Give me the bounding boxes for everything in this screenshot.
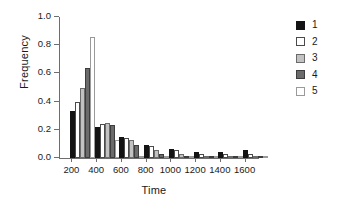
- x-axis-tick: [96, 158, 97, 162]
- frequency-time-bar-chart: Frequency 1.00.80.60.40.20.0 20040060080…: [0, 0, 337, 205]
- legend-item-3[interactable]: 3: [296, 50, 336, 67]
- bar-series-container: [59, 17, 257, 158]
- x-axis-tick: [71, 158, 72, 162]
- legend-swatch-white: [296, 37, 305, 46]
- x-axis-line: [59, 158, 259, 159]
- x-axis-tick: [195, 158, 196, 162]
- legend-item-label: 5: [312, 86, 318, 96]
- legend-item-5[interactable]: 5: [296, 83, 336, 100]
- x-axis-title: Time: [52, 184, 256, 196]
- legend-item-2[interactable]: 2: [296, 34, 336, 51]
- y-axis-title: Frequency: [18, 7, 30, 117]
- y-axis-tick-label: 0.0: [38, 151, 51, 162]
- x-axis-tick-label: 400: [88, 164, 104, 175]
- x-axis-tick-label: 200: [63, 164, 79, 175]
- x-axis-tick-label: 600: [113, 164, 129, 175]
- legend-item-4[interactable]: 4: [296, 67, 336, 84]
- x-axis-tick-label: 800: [138, 164, 154, 175]
- x-axis-tick: [245, 158, 246, 162]
- y-axis-tick-label: 0.6: [38, 66, 51, 77]
- legend-item-label: 2: [312, 37, 318, 47]
- plot-area: 1.00.80.60.40.20.0 200400600800100012001…: [59, 17, 257, 158]
- y-axis-tick-label: 0.4: [38, 95, 51, 106]
- y-axis-tick-label: 1.0: [38, 10, 51, 21]
- x-axis-tick-label: 1000: [160, 164, 181, 175]
- legend-item-label: 3: [312, 53, 318, 63]
- x-axis-tick-label: 1400: [209, 164, 230, 175]
- legend-swatch-white: [296, 87, 305, 96]
- x-axis-tick-label: 1600: [234, 164, 255, 175]
- y-axis-tick-label: 0.8: [38, 38, 51, 49]
- x-axis-tick: [121, 158, 122, 162]
- bar: [263, 156, 268, 158]
- legend-swatch-light-gray: [296, 54, 305, 63]
- legend-item-label: 1: [312, 20, 318, 30]
- x-axis-tick: [220, 158, 221, 162]
- x-axis-tick: [170, 158, 171, 162]
- x-axis-tick: [146, 158, 147, 162]
- legend-item-label: 4: [312, 70, 318, 80]
- legend: 12345: [296, 17, 336, 100]
- legend-swatch-black: [296, 21, 305, 30]
- legend-swatch-dark-gray: [296, 70, 305, 79]
- x-axis-tick-label: 1200: [185, 164, 206, 175]
- y-axis-tick-label: 0.2: [38, 123, 51, 134]
- legend-item-1[interactable]: 1: [296, 17, 336, 34]
